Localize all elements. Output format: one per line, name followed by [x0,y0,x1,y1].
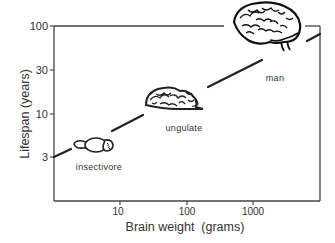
x-tick-label-100: 100 [179,206,196,217]
x-tick-label-10: 10 [112,206,124,217]
insectivore-brain-icon [74,138,113,152]
x-tick-label-1000: 1000 [242,206,265,217]
insectivore-label: insectivore [76,162,122,172]
ungulate-brain-icon [146,87,203,109]
plot-frame [54,26,320,201]
y-tick-label-100: 100 [30,20,48,32]
y-axis-title: Lifespan (years) [18,69,32,159]
ungulate-label: ungulate [166,123,203,133]
x-axis-title: Brain weight (grams) [126,220,245,234]
y-tick-label-10: 10 [36,108,48,120]
y-tick-label-30: 30 [36,64,48,76]
man-label: man [266,73,284,83]
chart: 100 30 10 3 10 100 1000 Brain weight (gr… [0,0,335,243]
man-brain-icon [234,2,300,51]
y-tick-label-3: 3 [42,151,48,163]
